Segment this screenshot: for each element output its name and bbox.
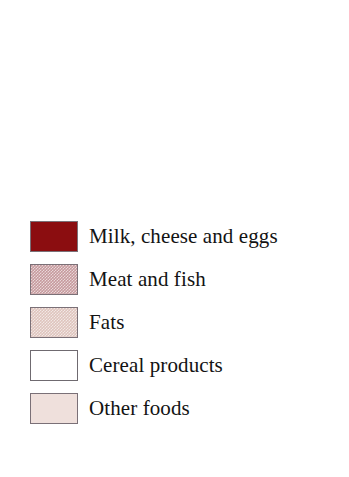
legend-item: Milk, cheese and eggs bbox=[30, 221, 340, 252]
legend-swatch-cereal-products bbox=[30, 350, 78, 381]
legend-item: Meat and fish bbox=[30, 264, 340, 295]
legend-swatch-meat-and-fish bbox=[30, 264, 78, 295]
figure-canvas: Milk, cheese and eggs Meat and fish Fats… bbox=[0, 0, 349, 477]
legend-label-milk-cheese-and-eggs: Milk, cheese and eggs bbox=[89, 226, 278, 247]
legend-label-other-foods: Other foods bbox=[89, 398, 190, 419]
legend-item: Other foods bbox=[30, 393, 340, 424]
legend-item: Cereal products bbox=[30, 350, 340, 381]
chart-legend: Milk, cheese and eggs Meat and fish Fats… bbox=[30, 221, 340, 424]
legend-swatch-milk-cheese-and-eggs bbox=[30, 221, 78, 252]
legend-item: Fats bbox=[30, 307, 340, 338]
legend-swatch-other-foods bbox=[30, 393, 78, 424]
legend-label-fats: Fats bbox=[89, 312, 124, 333]
legend-swatch-fats bbox=[30, 307, 78, 338]
legend-label-cereal-products: Cereal products bbox=[89, 355, 223, 376]
legend-label-meat-and-fish: Meat and fish bbox=[89, 269, 206, 290]
